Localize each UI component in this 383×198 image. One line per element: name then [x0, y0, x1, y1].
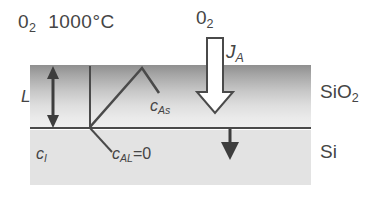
interstitial-concentration-subscript: I	[44, 152, 47, 164]
ambient-temperature-label: 1000°C	[48, 11, 115, 32]
flux-subscript: A	[236, 51, 244, 65]
oxide-layer-label: SiO2	[320, 82, 359, 105]
interface-leader-line	[90, 128, 112, 152]
gas-species-subscript: 2	[207, 17, 214, 31]
interface-concentration-label: cAL=0	[112, 146, 151, 164]
interface-concentration-subscript: AL	[120, 152, 133, 164]
oxide-thickness-label: L	[21, 88, 30, 105]
interstitial-concentration-label: cI	[36, 146, 47, 164]
surface-concentration-label: cAs	[150, 98, 170, 116]
substrate-layer-label: Si	[320, 142, 337, 161]
flux-label: JA	[226, 42, 244, 65]
interface-concentration-value: =0	[133, 145, 151, 162]
ambient-condition-label: 02 1000°C	[18, 12, 115, 35]
gas-species-label: 02	[196, 8, 214, 31]
surface-concentration-subscript: As	[158, 104, 170, 116]
diagram-canvas: 02 1000°C 02 JA L cAs cI cAL=0 SiO2 Si	[0, 0, 383, 198]
concentration-profile-line	[90, 68, 159, 127]
diffusion-direction-arrow-icon	[221, 129, 239, 160]
oxide-layer-subscript: 2	[352, 91, 359, 105]
oxide-thickness-arrow-icon	[47, 66, 59, 128]
ambient-species-subscript: 2	[29, 21, 36, 35]
